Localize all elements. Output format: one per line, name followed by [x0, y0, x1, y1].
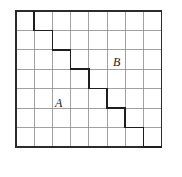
- region-label-b: B: [113, 56, 120, 68]
- staircase-boundary: [34, 11, 161, 147]
- region-label-a: A: [55, 97, 62, 109]
- staircase-grid-figure: A B: [0, 0, 182, 177]
- grid-diagram: [0, 0, 182, 177]
- staircase-polyline: [34, 11, 161, 147]
